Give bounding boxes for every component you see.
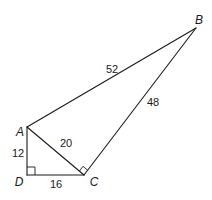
- triangle-diagram: B A D C 52 48 20 12 16: [0, 0, 212, 200]
- side-label-ac: 20: [60, 137, 72, 149]
- vertex-label-c: C: [90, 175, 99, 189]
- vertex-label-b: B: [195, 13, 203, 27]
- segment-bc: [84, 28, 196, 175]
- vertex-label-d: D: [15, 175, 24, 189]
- side-label-dc: 16: [50, 178, 62, 190]
- vertex-label-a: A: [15, 125, 24, 139]
- right-angle-marker-c: [79, 166, 87, 171]
- side-label-ab: 52: [106, 63, 118, 75]
- right-angle-marker-d: [27, 167, 35, 175]
- side-label-bc: 48: [147, 96, 159, 108]
- side-label-ad: 12: [12, 147, 24, 159]
- segment-ab: [27, 28, 196, 127]
- segment-ac: [27, 127, 84, 175]
